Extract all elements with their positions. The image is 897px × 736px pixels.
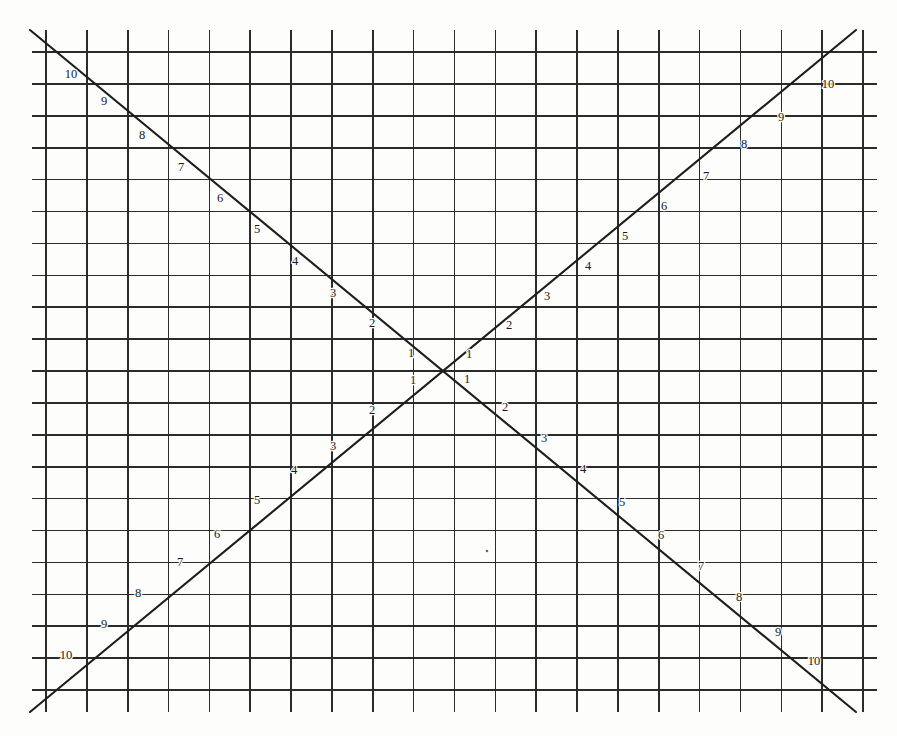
label-ascending-upper-10: 10 [822,77,835,91]
label-descending-upper-6: 6 [217,191,223,205]
label-descending-upper-4: 4 [292,254,299,268]
label-descending-lower-4: 4 [580,462,587,476]
label-descending-lower-10: 10 [808,654,821,668]
paper-artifacts [486,550,489,553]
label-ascending-upper-9: 9 [778,110,784,124]
label-ascending-lower-8: 8 [135,586,141,600]
label-descending-lower-9: 9 [775,625,781,639]
label-descending-upper-9: 9 [101,94,107,108]
label-ascending-lower-6: 6 [214,527,220,541]
label-descending-upper-3: 3 [330,286,336,300]
label-ascending-upper-8: 8 [741,137,747,151]
label-descending-upper-2: 2 [369,316,375,330]
label-descending-lower-3: 3 [541,431,547,445]
label-ascending-upper-1: 1 [466,347,472,361]
label-descending-upper-1: 1 [408,346,414,360]
label-ascending-lower-2: 2 [369,403,375,417]
label-ascending-upper-5: 5 [622,229,628,243]
label-ascending-lower-5: 5 [254,493,260,507]
label-descending-upper-10: 10 [65,67,78,81]
paper-speck-0 [486,550,489,553]
label-ascending-upper-6: 6 [661,199,667,213]
label-descending-upper-5: 5 [254,222,260,236]
label-ascending-lower-10: 10 [60,648,73,662]
label-ascending-lower-4: 4 [291,463,298,477]
label-descending-lower-6: 6 [658,528,664,542]
label-ascending-lower-3: 3 [330,439,336,453]
label-ascending-upper-3: 3 [544,289,550,303]
label-descending-lower-8: 8 [736,590,742,604]
label-ascending-lower-7: 7 [177,555,183,569]
label-ascending-lower-9: 9 [101,617,107,631]
horizontal-gridlines [32,52,877,690]
grid-diagram: 1098765432112345678910109876543211234567… [0,0,897,736]
label-ascending-upper-2: 2 [506,318,512,332]
label-descending-upper-7: 7 [178,160,184,174]
label-descending-upper-8: 8 [139,128,145,142]
label-descending-lower-5: 5 [619,495,625,509]
label-descending-lower-1: 1 [464,372,470,386]
label-descending-lower-2: 2 [502,400,508,414]
label-ascending-lower-1: 1 [410,373,416,387]
label-descending-lower-7: 7 [698,559,704,573]
label-ascending-upper-4: 4 [585,259,592,273]
label-ascending-upper-7: 7 [703,169,709,183]
figure-canvas: 1098765432112345678910109876543211234567… [0,0,897,736]
